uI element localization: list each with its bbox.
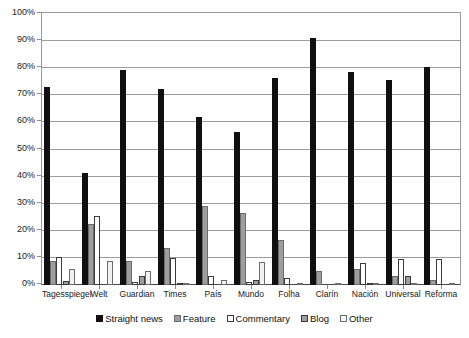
bar bbox=[360, 263, 366, 285]
bar bbox=[398, 259, 404, 285]
bar bbox=[120, 70, 126, 285]
bar bbox=[373, 283, 379, 285]
bar bbox=[221, 280, 227, 285]
y-tick-label: 40% bbox=[17, 171, 35, 180]
bar bbox=[278, 240, 284, 285]
x-tick-label: Tagesspiegel bbox=[42, 288, 80, 300]
bar bbox=[107, 261, 113, 285]
x-tick-label: Mundo bbox=[232, 288, 270, 300]
x-tick-label: Clarín bbox=[308, 288, 346, 300]
bar bbox=[284, 278, 290, 285]
bar-group bbox=[234, 13, 266, 285]
bar bbox=[145, 271, 151, 285]
bar bbox=[430, 280, 436, 285]
bar bbox=[348, 72, 354, 285]
legend-item[interactable]: Straight news bbox=[96, 313, 163, 324]
bar bbox=[56, 257, 62, 285]
bar bbox=[208, 276, 214, 285]
bar bbox=[234, 132, 240, 285]
bar bbox=[411, 283, 417, 285]
bar bbox=[44, 87, 50, 285]
legend-swatch-icon bbox=[96, 315, 103, 322]
bar bbox=[405, 276, 411, 285]
bar bbox=[240, 213, 246, 285]
chart-figure: 0%10%20%30%40%50%60%70%80%90%100% Tagess… bbox=[0, 0, 469, 338]
y-tick-label: 50% bbox=[17, 144, 35, 153]
bar-group bbox=[158, 13, 190, 285]
bar bbox=[436, 259, 442, 285]
bar-group bbox=[120, 13, 152, 285]
bar bbox=[139, 276, 145, 285]
bar bbox=[253, 280, 259, 285]
bar bbox=[82, 173, 88, 285]
chart-legend: Straight newsFeatureCommentaryBlogOther bbox=[0, 313, 469, 324]
bar bbox=[272, 78, 278, 285]
y-tick-label: 20% bbox=[17, 225, 35, 234]
bar bbox=[297, 283, 303, 285]
bar bbox=[164, 248, 170, 285]
y-tick-label: 0% bbox=[22, 279, 35, 288]
bar bbox=[310, 38, 316, 285]
y-tick-label: 90% bbox=[17, 35, 35, 44]
bar bbox=[386, 80, 392, 285]
legend-swatch-icon bbox=[227, 315, 234, 322]
legend-swatch-icon bbox=[174, 315, 181, 322]
x-tick-label: País bbox=[194, 288, 232, 300]
bar-group bbox=[44, 13, 76, 285]
x-axis: TagesspiegelWeltGuardianTimesPaísMundoFo… bbox=[42, 288, 460, 304]
bar-group bbox=[348, 13, 380, 285]
bar-group bbox=[310, 13, 342, 285]
legend-label: Straight news bbox=[105, 313, 163, 324]
bar bbox=[316, 271, 322, 285]
bar bbox=[367, 283, 373, 285]
bar bbox=[335, 283, 341, 285]
bar bbox=[69, 269, 75, 285]
y-tick-label: 30% bbox=[17, 198, 35, 207]
y-tick-label: 70% bbox=[17, 89, 35, 98]
x-tick-label: Universal bbox=[384, 288, 422, 300]
legend-item[interactable]: Blog bbox=[301, 313, 329, 324]
x-tick-label: Guardian bbox=[118, 288, 156, 300]
bar bbox=[196, 117, 202, 285]
bar-group bbox=[272, 13, 304, 285]
y-tick-label: 80% bbox=[17, 62, 35, 71]
bar bbox=[202, 206, 208, 285]
bar bbox=[354, 269, 360, 285]
y-tick-label: 10% bbox=[17, 252, 35, 261]
bar bbox=[170, 258, 176, 285]
legend-swatch-icon bbox=[340, 315, 347, 322]
x-tick-label: Reforma bbox=[422, 288, 460, 300]
bar bbox=[183, 283, 189, 285]
bar bbox=[126, 261, 132, 285]
x-tick-label: Times bbox=[156, 288, 194, 300]
bar-group bbox=[82, 13, 114, 285]
bar-group bbox=[386, 13, 418, 285]
bar bbox=[424, 67, 430, 285]
bars-layer bbox=[42, 13, 460, 285]
y-tick-label: 100% bbox=[12, 8, 35, 17]
bar bbox=[94, 216, 100, 285]
legend-item[interactable]: Commentary bbox=[227, 313, 290, 324]
legend-item[interactable]: Feature bbox=[174, 313, 216, 324]
legend-swatch-icon bbox=[301, 315, 308, 322]
legend-label: Blog bbox=[310, 313, 329, 324]
bar bbox=[63, 281, 69, 285]
bar bbox=[88, 224, 94, 285]
bar bbox=[259, 262, 265, 285]
y-tick-label: 60% bbox=[17, 116, 35, 125]
bar-group bbox=[196, 13, 228, 285]
bar bbox=[449, 283, 455, 285]
bar bbox=[50, 261, 56, 285]
legend-label: Feature bbox=[183, 313, 216, 324]
legend-label: Other bbox=[349, 313, 373, 324]
bar bbox=[177, 283, 183, 285]
x-tick-label: Welt bbox=[80, 288, 118, 300]
bar bbox=[158, 89, 164, 285]
x-tick-label: Folha bbox=[270, 288, 308, 300]
legend-label: Commentary bbox=[236, 313, 290, 324]
bar bbox=[392, 276, 398, 285]
y-axis: 0%10%20%30%40%50%60%70%80%90%100% bbox=[0, 0, 41, 300]
bar-group bbox=[424, 13, 456, 285]
x-tick-label: Nación bbox=[346, 288, 384, 300]
legend-item[interactable]: Other bbox=[340, 313, 373, 324]
